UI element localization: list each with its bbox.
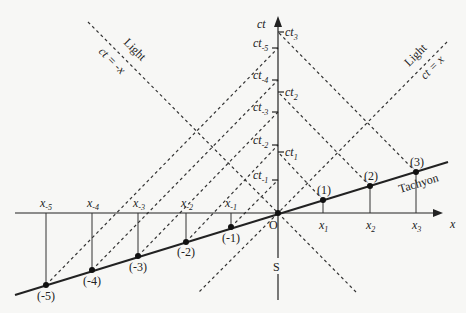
ct-tick-labels: ct-5 ct-4 ct-3 ct-2 ct-1 ct1 ct2 ct3	[253, 25, 298, 185]
light-line-left-lower	[278, 213, 357, 293]
svg-text:x-1: x-1	[224, 196, 237, 212]
svg-text:(-1): (-1)	[222, 231, 240, 245]
svg-text:(2): (2)	[364, 169, 378, 183]
svg-text:ct-3: ct-3	[253, 100, 268, 117]
x-axis-label: x	[449, 217, 456, 231]
ct-axis-arrow-icon	[274, 16, 282, 27]
svg-text:x1: x1	[318, 218, 328, 234]
event-line-p2	[278, 92, 370, 186]
svg-text:(1): (1)	[317, 183, 331, 197]
event-line-p3	[278, 32, 416, 172]
svg-text:x-2: x-2	[180, 196, 193, 212]
svg-text:(-5): (-5)	[37, 289, 55, 303]
svg-text:ct-5: ct-5	[253, 36, 268, 53]
diagram-svg: ct x O S Light ct = -x Light ct = x Tach…	[0, 0, 466, 313]
svg-text:ct3: ct3	[285, 25, 298, 42]
spacetime-diagram: ct x O S Light ct = -x Light ct = x Tach…	[0, 0, 466, 313]
frame-label: S	[273, 260, 280, 274]
light-line-right-lower	[198, 213, 278, 293]
svg-text:x3: x3	[411, 218, 421, 234]
event-dots	[43, 169, 419, 288]
svg-text:ct-1: ct-1	[253, 168, 268, 185]
light-left-equation: ct = -x	[96, 44, 129, 77]
svg-text:ct-2: ct-2	[253, 133, 268, 150]
svg-text:(-4): (-4)	[83, 274, 101, 288]
svg-text:x2: x2	[365, 218, 375, 234]
origin-label: O	[269, 218, 278, 232]
ct-axis-label: ct	[257, 17, 266, 31]
svg-text:x-5: x-5	[39, 196, 52, 212]
svg-text:ct2: ct2	[285, 85, 298, 102]
svg-text:ct1: ct1	[285, 145, 298, 162]
x-axis-arrow-icon	[433, 209, 443, 217]
light-line-left	[88, 22, 278, 213]
tachyon-label: Tachyon	[397, 170, 440, 195]
light-left-label: Light	[121, 35, 150, 64]
svg-text:x-4: x-4	[86, 196, 99, 212]
svg-text:(-3): (-3)	[129, 260, 147, 274]
svg-text:(-2): (-2)	[177, 245, 195, 259]
svg-text:(3): (3)	[410, 155, 424, 169]
svg-text:x-3: x-3	[132, 196, 145, 212]
svg-text:ct-4: ct-4	[253, 68, 268, 85]
